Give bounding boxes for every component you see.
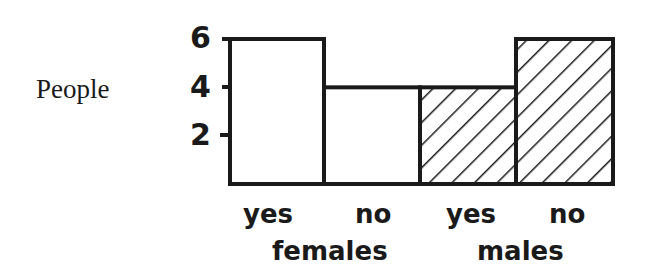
- tick-label-2: 2: [190, 120, 211, 150]
- bar-3: [516, 39, 613, 184]
- y-axis-label: People: [36, 74, 110, 105]
- bar-0: [230, 39, 324, 184]
- category-label-female-no: no: [355, 201, 391, 227]
- category-label-male-no: no: [549, 201, 585, 227]
- category-label-male-yes: yes: [446, 201, 496, 227]
- category-label-female-yes: yes: [243, 201, 293, 227]
- group-label-males: males: [477, 238, 564, 264]
- bar-1: [324, 87, 420, 184]
- group-label-females: females: [272, 238, 388, 264]
- bars: [230, 39, 613, 184]
- tick-label-4: 4: [190, 72, 211, 102]
- bar-2: [420, 87, 516, 184]
- tick-label-6: 6: [190, 23, 211, 53]
